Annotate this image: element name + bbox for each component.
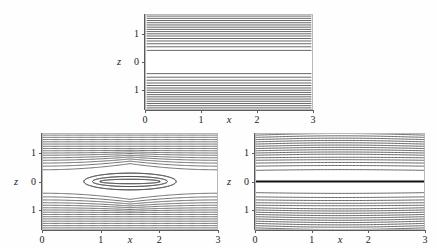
y-tick-label: 1 [239, 148, 249, 158]
x-tick [425, 230, 426, 233]
y-tick-label: 1 [239, 205, 249, 215]
x-tick-label: 1 [309, 235, 314, 245]
x-tick-label: 1 [98, 235, 103, 245]
y-axis-label: z [227, 176, 231, 187]
panel-bottom-left [42, 133, 218, 230]
x-tick [312, 230, 313, 233]
x-tick [368, 230, 369, 233]
panel-bottom-left-plot-area [42, 133, 218, 230]
x-tick [218, 230, 219, 233]
y-tick [39, 182, 42, 183]
y-tick [252, 210, 255, 211]
y-axis-label: z [117, 57, 121, 68]
x-tick [159, 230, 160, 233]
x-tick [101, 230, 102, 233]
x-tick [257, 110, 258, 113]
y-tick-label: 0 [26, 177, 36, 187]
y-tick [252, 182, 255, 183]
panel-bottom-right-x-axis [255, 230, 425, 231]
panel-bottom-right [255, 133, 425, 230]
x-tick-label: 0 [143, 115, 148, 125]
panel-bottom-right-plot-area [255, 133, 425, 230]
x-tick [313, 110, 314, 113]
y-tick-label: 1 [26, 205, 36, 215]
y-tick [252, 153, 255, 154]
contour-figure: 0123101zx 0123101zx 0123101zx [0, 0, 437, 248]
x-tick [145, 110, 146, 113]
panel-top-contours [146, 15, 312, 109]
y-axis-label: z [14, 176, 18, 187]
panel-top [145, 14, 313, 110]
y-tick-label: 1 [26, 148, 36, 158]
x-tick-label: 0 [40, 235, 45, 245]
x-tick [201, 110, 202, 113]
panel-bottom-left-contours [43, 134, 217, 229]
y-tick [142, 34, 145, 35]
y-tick-label: 1 [129, 29, 139, 39]
x-tick [42, 230, 43, 233]
y-tick [39, 210, 42, 211]
x-tick-label: 3 [423, 235, 428, 245]
y-tick [142, 62, 145, 63]
y-tick-label: 1 [129, 85, 139, 95]
x-tick-label: 0 [253, 235, 258, 245]
x-tick-label: 2 [366, 235, 371, 245]
panel-top-plot-area [145, 14, 313, 110]
y-tick [39, 153, 42, 154]
panel-top-x-axis [145, 110, 313, 111]
x-axis-label: x [128, 235, 133, 246]
x-axis-label: x [227, 115, 232, 126]
y-tick-label: 0 [239, 177, 249, 187]
x-tick-label: 1 [199, 115, 204, 125]
x-tick [255, 230, 256, 233]
x-axis-label: x [338, 235, 343, 246]
panel-bottom-left-x-axis [42, 230, 218, 231]
x-tick-label: 2 [157, 235, 162, 245]
x-tick-label: 2 [255, 115, 260, 125]
y-tick-label: 0 [129, 57, 139, 67]
x-tick-label: 3 [311, 115, 316, 125]
panel-bottom-right-contours [256, 134, 424, 229]
x-tick-label: 3 [216, 235, 221, 245]
y-tick [142, 90, 145, 91]
